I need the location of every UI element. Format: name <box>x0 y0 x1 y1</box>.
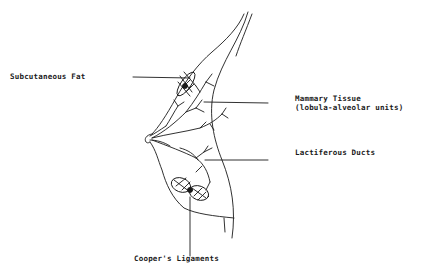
pointer-subcutaneous-fat <box>133 77 190 78</box>
label-mammary-tissue: Mammary Tissue <box>295 94 361 103</box>
chest-wall-line <box>212 12 248 238</box>
label-lactiferous-ducts: Lactiferous Ducts <box>295 148 375 157</box>
diagram-canvas: Subcutaneous Fat Mammary Tissue (lobula-… <box>0 0 428 266</box>
label-mammary-tissue-sub: (lobula-alveolar units) <box>295 103 403 112</box>
label-subcutaneous-fat: Subcutaneous Fat <box>10 72 85 81</box>
breast-anatomy-drawing <box>0 0 428 266</box>
pointer-mammary-tissue <box>204 102 268 103</box>
skin-outline-upper <box>152 14 244 134</box>
label-coopers-ligaments: Cooper's Ligaments <box>134 254 219 263</box>
